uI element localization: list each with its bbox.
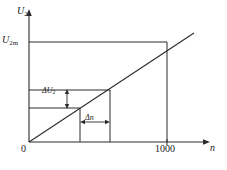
chart-canvas	[0, 0, 227, 170]
delta-u2-subscript: 2	[52, 89, 55, 95]
origin-label: 0	[21, 144, 26, 154]
y-tick-label-u2m: U2m	[2, 35, 18, 46]
delta-u2-dimension	[65, 89, 69, 109]
x-tick-label-1000: 1000	[155, 144, 175, 154]
y-axis-label: U2	[17, 6, 28, 17]
figure-container: U2 U2m 0 1000 n ΔU2 Δn	[0, 0, 227, 170]
delta-u2-symbol: ΔU	[42, 86, 52, 95]
y-tick-label-subscript: 2m	[9, 39, 18, 46]
delta-n-label: Δn	[85, 114, 94, 122]
y-axis-label-subscript: 2	[24, 10, 27, 17]
x-axis-arrowhead	[203, 139, 210, 145]
x-axis-label: n	[210, 143, 215, 153]
delta-u2-label: ΔU2	[42, 87, 55, 96]
